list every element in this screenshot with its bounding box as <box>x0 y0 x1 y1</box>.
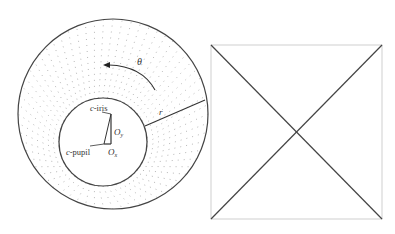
center-offset-vector <box>104 114 111 144</box>
radial-dotted-line <box>18 123 59 146</box>
radial-dotted-line <box>20 133 60 151</box>
radial-dotted-line <box>127 179 165 193</box>
c-pupil-leader <box>90 144 104 146</box>
radial-dotted-line <box>53 176 75 187</box>
theta-label: θ <box>137 56 142 67</box>
radial-dotted-line <box>131 41 173 108</box>
radial-dotted-line <box>103 186 113 209</box>
radial-dotted-line <box>22 142 61 155</box>
radial-dotted-line <box>107 186 122 209</box>
radial-dotted-line <box>22 86 61 129</box>
radial-dotted-line <box>112 185 132 207</box>
c-pupil-label: c-pupil <box>66 147 91 157</box>
radial-dotted-line <box>99 19 104 98</box>
radial-dotted-line <box>144 150 201 158</box>
radial-dotted-line <box>29 159 64 163</box>
radial-dotted-line <box>40 54 69 114</box>
radius-line <box>145 100 205 126</box>
radial-dotted-line <box>131 176 173 187</box>
radial-dotted-line <box>34 61 66 117</box>
iris-normalization-diagram: r θ c-iris c-pupil Oy Ox <box>0 0 395 234</box>
radial-dotted-line <box>146 95 206 133</box>
radial-dotted-line <box>60 35 78 105</box>
radial-dotted-line <box>147 114 208 142</box>
radial-dotted-line <box>60 179 78 193</box>
o-y-label: Oy <box>114 127 124 138</box>
radial-dotted-line <box>124 181 158 198</box>
radial-dotted-line <box>68 30 82 103</box>
radial-dotted-line <box>20 95 60 133</box>
radial-dotted-line <box>40 170 69 174</box>
radial-sampling-lines <box>18 19 208 209</box>
arrowhead-icon <box>103 62 110 68</box>
radial-dotted-line <box>85 23 90 100</box>
radial-dotted-line <box>145 86 204 129</box>
radial-dotted-line <box>103 19 113 98</box>
radial-dotted-line <box>116 184 141 205</box>
radial-dotted-line <box>53 41 75 108</box>
iris-outer-boundary <box>18 19 208 209</box>
radial-dotted-line <box>120 26 150 101</box>
r-label: r <box>159 107 163 117</box>
c-iris-label: c-iris <box>90 103 107 113</box>
radial-dotted-line <box>77 26 87 101</box>
o-x-label: Ox <box>108 147 118 158</box>
radial-dotted-line <box>85 184 90 205</box>
radial-dotted-line <box>137 170 186 174</box>
radial-dotted-line <box>99 186 104 209</box>
radial-dotted-line <box>146 133 206 151</box>
radial-dotted-line <box>46 173 72 181</box>
radial-dotted-line <box>137 54 186 114</box>
radial-dotted-line <box>145 142 204 155</box>
radial-dotted-line <box>68 181 82 198</box>
radial-dotted-line <box>142 159 197 163</box>
radial-dotted-line <box>25 150 62 158</box>
radial-dotted-line <box>134 173 180 181</box>
radial-dotted-line <box>18 105 59 138</box>
radial-dotted-line <box>18 114 59 142</box>
radial-dotted-line <box>46 47 72 111</box>
radial-dotted-line <box>29 69 64 121</box>
